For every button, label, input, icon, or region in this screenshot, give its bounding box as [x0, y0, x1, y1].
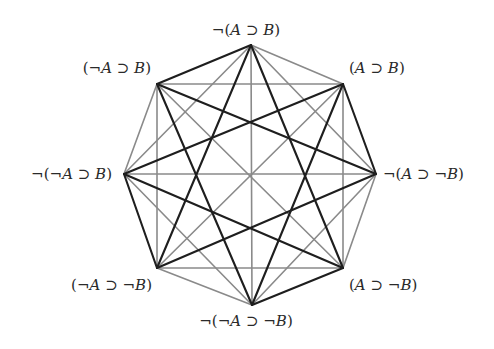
vertex-label-tl: (¬A ⊃ B)	[83, 59, 151, 77]
edge-bl-l	[124, 174, 157, 268]
vertex-label-bl: (¬A ⊃ ¬B)	[71, 276, 152, 294]
vertex-label-br: (A ⊃ ¬B)	[349, 276, 417, 294]
edge-r-br	[343, 174, 376, 268]
edge-tr-r	[343, 84, 376, 174]
vertex-label-t: ¬(A ⊃ B)	[212, 21, 280, 39]
vertex-label-b: ¬(¬A ⊃ ¬B)	[199, 312, 292, 330]
vertex-label-l: ¬(¬A ⊃ B)	[31, 165, 112, 183]
octagon-diagram: ¬(A ⊃ B)(A ⊃ B)¬(A ⊃ ¬B)(A ⊃ ¬B)¬(¬A ⊃ ¬…	[0, 0, 494, 349]
vertex-label-tr: (A ⊃ B)	[349, 59, 405, 77]
vertex-labels: ¬(A ⊃ B)(A ⊃ B)¬(A ⊃ ¬B)(A ⊃ ¬B)¬(¬A ⊃ ¬…	[31, 21, 464, 330]
edge-l-tl	[124, 84, 157, 174]
vertex-label-r: ¬(A ⊃ ¬B)	[383, 165, 464, 183]
